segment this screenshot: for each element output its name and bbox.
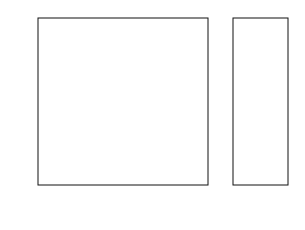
figure-canvas (0, 0, 305, 230)
figure-root (0, 0, 305, 230)
right-axes-frame (233, 18, 288, 185)
left-axes-frame (38, 18, 208, 185)
